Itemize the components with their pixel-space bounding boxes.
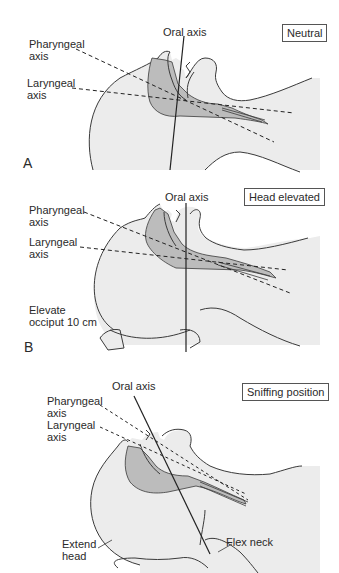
extend-head-label: Extend head — [62, 538, 96, 562]
laryngeal-axis-label: Laryngeal axis — [47, 419, 95, 443]
laryngeal-axis-label-line1: Laryngeal — [27, 77, 75, 89]
elevate-occiput-label: Elevate occiput 10 cm — [29, 304, 97, 328]
laryngeal-axis-label: Laryngeal axis — [29, 236, 77, 260]
flex-neck-label: Flex neck — [226, 536, 273, 548]
panel-a-illustration — [72, 36, 320, 172]
extend-head-label-line1: Extend — [62, 538, 96, 550]
pharyngeal-axis-label: Pharyngeal axis — [29, 38, 85, 62]
laryngeal-axis-label: Laryngeal axis — [27, 77, 75, 101]
elevate-occiput-label-line1: Elevate — [29, 304, 97, 316]
laryngeal-axis-label-line2: axis — [29, 248, 77, 260]
pharyngeal-axis-label: Pharyngeal axis — [47, 395, 103, 419]
panel-b-illustration — [80, 203, 320, 352]
pharyngeal-axis-label-line1: Pharyngeal — [47, 395, 103, 407]
state-box-sniffing-position: Sniffing position — [242, 383, 329, 401]
panel-letter-a: A — [23, 155, 32, 171]
laryngeal-axis-label-line2: axis — [47, 431, 95, 443]
state-box-neutral: Neutral — [282, 24, 327, 42]
pharyngeal-axis-label-line1: Pharyngeal — [29, 38, 85, 50]
oral-axis-label: Oral axis — [163, 26, 206, 38]
pharyngeal-axis-label-line1: Pharyngeal — [29, 204, 85, 216]
pharyngeal-axis-label-line2: axis — [47, 407, 103, 419]
elevate-occiput-label-line2: occiput 10 cm — [29, 316, 97, 328]
pharyngeal-axis-label-line2: axis — [29, 50, 85, 62]
oral-axis-label: Oral axis — [112, 380, 155, 392]
laryngeal-axis-label-line1: Laryngeal — [47, 419, 95, 431]
extend-head-label-line2: head — [62, 550, 96, 562]
pharyngeal-axis-label: Pharyngeal axis — [29, 204, 85, 228]
pharyngeal-axis-label-line2: axis — [29, 216, 85, 228]
state-box-head-elevated: Head elevated — [244, 188, 325, 206]
oral-axis-label: Oral axis — [165, 191, 208, 203]
laryngeal-axis-label-line2: axis — [27, 89, 75, 101]
laryngeal-axis-label-line1: Laryngeal — [29, 236, 77, 248]
panel-c-illustration — [91, 396, 320, 573]
panel-letter-b: B — [24, 339, 33, 355]
